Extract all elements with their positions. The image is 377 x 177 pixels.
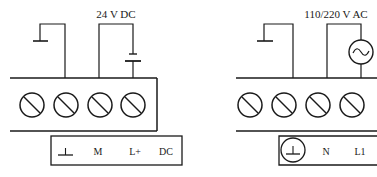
terminal-label-dc: DC: [159, 146, 173, 157]
ground-wire: [264, 24, 293, 78]
terminal-label-l1: L1: [354, 146, 365, 157]
screw-terminal-1[interactable]: [20, 93, 44, 117]
ac-supply-wire: [327, 24, 361, 78]
battery-icon: [125, 54, 141, 61]
screw-terminal-3[interactable]: [306, 93, 330, 117]
ground-label-icon: [58, 148, 73, 155]
left-dc-diagram: [10, 24, 182, 165]
screw-terminal-1[interactable]: [238, 93, 262, 117]
terminal-label-lplus: L+: [129, 146, 141, 157]
ac-supply-label: 110/220 V AC: [304, 8, 367, 20]
screw-terminal-2[interactable]: [272, 93, 296, 117]
right-ac-diagram: [236, 24, 377, 165]
dc-supply-wire: [99, 24, 133, 78]
ground-wire: [40, 24, 65, 78]
protective-earth-icon: [281, 138, 305, 162]
ac-source-icon: [349, 40, 373, 64]
terminal-label-m: M: [94, 146, 103, 157]
screw-terminal-4[interactable]: [121, 93, 145, 117]
terminal-label-n: N: [322, 146, 329, 157]
dc-supply-label: 24 V DC: [96, 8, 135, 20]
screw-terminal-4[interactable]: [340, 93, 364, 117]
screw-terminal-3[interactable]: [88, 93, 112, 117]
screw-terminal-2[interactable]: [54, 93, 78, 117]
power-wiring-diagram: 24 V DC M L+ DC 110/220 V AC N L1: [0, 0, 377, 177]
